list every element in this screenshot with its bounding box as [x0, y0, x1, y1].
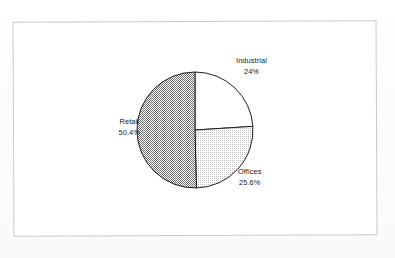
pie-label-retail-name: Retail [119, 117, 140, 128]
pie-label-retail: Retail 50.4% [119, 117, 140, 138]
pie-label-industrial: Industrial 24% [236, 56, 267, 77]
pie-label-retail-value: 50.4% [119, 128, 140, 139]
pie-label-offices-value: 25.6% [238, 178, 262, 189]
pie-label-offices-name: Offices [238, 167, 262, 178]
pie-slice-industrial[interactable] [195, 72, 253, 130]
pie-slices [137, 72, 253, 188]
pie-chart [0, 0, 395, 258]
pie-slice-retail[interactable] [137, 72, 197, 188]
chart-page: Industrial 24% Offices 25.6% Retail 50.4… [0, 0, 395, 258]
pie-label-industrial-value: 24% [236, 67, 267, 78]
pie-label-offices: Offices 25.6% [238, 167, 262, 188]
pie-label-industrial-name: Industrial [236, 56, 267, 67]
